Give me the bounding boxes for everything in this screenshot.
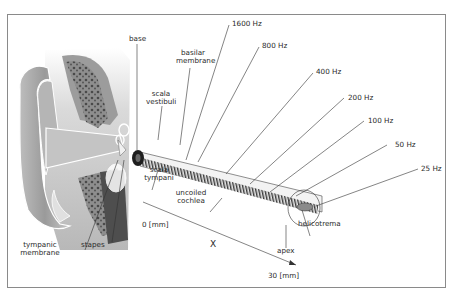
label-base: base: [129, 35, 146, 43]
leader-lines: [85, 25, 418, 265]
label-helicotrema: helicotrema: [298, 220, 341, 228]
cochlea-illustration: [0, 0, 456, 298]
freq-label-800: 800 Hz: [262, 42, 287, 50]
axis-variable-label: X: [210, 240, 216, 248]
axis-end-label: 30 [mm]: [268, 272, 299, 280]
freq-label-25: 25 Hz: [421, 165, 442, 173]
label-line: membrane: [176, 57, 210, 65]
label-line: vestibuli: [146, 98, 176, 106]
axis-start-label: 0 [mm]: [142, 221, 168, 229]
label-stapes: stapes: [81, 241, 105, 249]
label-line: membrane: [20, 249, 60, 257]
freq-label-50: 50 Hz: [395, 141, 416, 149]
label-apex: apex: [277, 247, 295, 255]
helicotrema-shape: [297, 203, 313, 211]
label-line: cochlea: [174, 197, 208, 205]
label-line: tympani: [144, 174, 174, 182]
label-tympanic-membrane: tympanic membrane: [20, 241, 60, 257]
freq-label-100: 100 Hz: [368, 117, 393, 125]
uncoiled-cochlea: [132, 150, 322, 226]
freq-label-200: 200 Hz: [348, 94, 373, 102]
label-scala-vestibuli: scala vestibuli: [146, 90, 176, 106]
freq-label-1600: 1600 Hz: [232, 20, 262, 28]
label-uncoiled-cochlea: uncoiled cochlea: [174, 189, 208, 205]
label-scala-tympani: scala tympani: [144, 166, 174, 182]
freq-label-400: 400 Hz: [316, 68, 341, 76]
label-basilar-membrane: basilar membrane: [176, 49, 210, 65]
arrow-head-icon: [289, 260, 296, 265]
